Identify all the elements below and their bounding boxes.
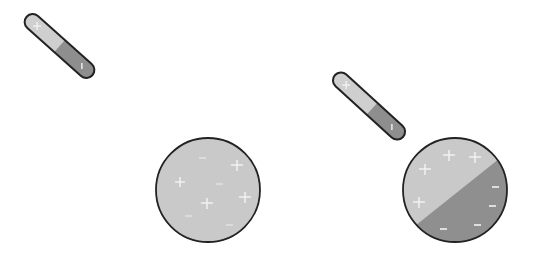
neutral-sphere xyxy=(156,138,260,242)
rod-negative-half xyxy=(54,40,97,81)
rod-positive-half xyxy=(21,11,64,52)
rod-positive-half xyxy=(330,69,378,115)
charged-rod-left xyxy=(21,11,97,81)
polarized-sphere xyxy=(400,136,512,246)
diagram-canvas xyxy=(0,0,536,262)
charged-rod-right xyxy=(330,69,409,143)
